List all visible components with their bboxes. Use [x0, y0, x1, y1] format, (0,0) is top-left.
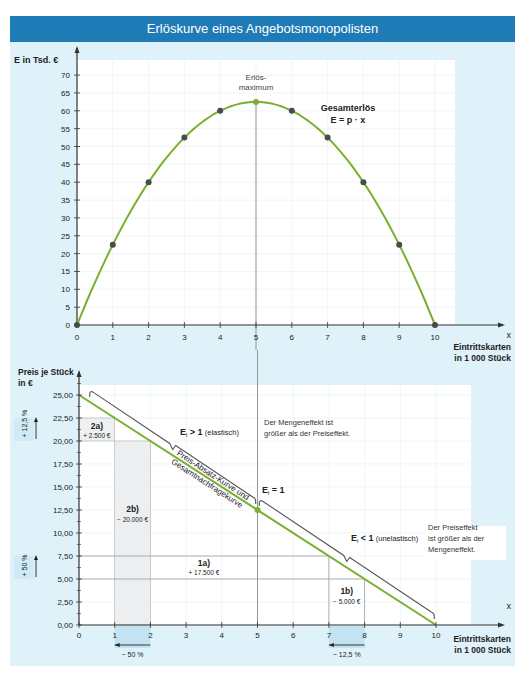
y-tick-label: 25,00: [53, 391, 74, 400]
pct-plus-50: + 50 %: [21, 555, 28, 577]
box-2b-value: − 20.000 €: [117, 516, 148, 523]
data-point: [325, 135, 331, 141]
pct-minus-12-5: − 12,5 %: [333, 651, 361, 658]
x-tick-label: 7: [325, 333, 330, 342]
x-tick-label: 0: [75, 333, 80, 342]
x-tick-label: 1: [112, 631, 117, 640]
arrow-up-icon: [75, 46, 80, 53]
box-2b: [115, 441, 151, 625]
data-point: [110, 242, 116, 248]
y-tick-label: 60: [61, 107, 70, 116]
x-tick-label: 6: [291, 631, 296, 640]
y-tick-label: 10: [61, 285, 70, 294]
arrow-right-icon: [498, 623, 505, 628]
box-2b-label: 2b): [126, 504, 139, 514]
x-tick-label: 0: [77, 631, 82, 640]
x-tick-label: 9: [397, 333, 402, 342]
top-y-axis-label: E in Tsd. €: [14, 55, 58, 65]
pct-minus-50: − 50 %: [122, 651, 144, 658]
data-point: [289, 108, 295, 114]
x-tick-label: 3: [182, 333, 187, 342]
y-tick-label: 25: [61, 232, 70, 241]
box-1a-value: + 17.500 €: [188, 569, 219, 576]
y-tick-label: 30: [61, 214, 70, 223]
y-tick-label: 0: [66, 321, 71, 330]
y-tick-label: 45: [61, 160, 70, 169]
quantity-effect-note: größer als der Preiseffekt.: [264, 429, 350, 438]
box-1a-label: 1a): [198, 558, 210, 568]
elastic-label: El > 1 (elastisch): [180, 427, 239, 438]
curve-label: Gesamterlös: [321, 103, 376, 113]
box-2a-value: + 2.500 €: [83, 432, 111, 439]
box-1b-value: − 5.000 €: [333, 598, 361, 605]
pct-plus-12-5: + 12,5 %: [21, 410, 28, 438]
x-tick-label: 3: [184, 631, 189, 640]
y-tick-label: 20: [61, 250, 70, 259]
y-tick-label: 7,50: [57, 552, 73, 561]
data-point: [253, 99, 259, 105]
data-point: [146, 179, 152, 185]
y-tick-label: 12,50: [53, 506, 74, 515]
max-label: Erlös-: [246, 73, 267, 82]
x-axis-label: Eintrittskarten: [453, 342, 511, 352]
y-tick-label: 10,00: [53, 529, 74, 538]
inelastic-label: El < 1 (unelastisch): [351, 533, 419, 544]
y-tick-label: 40: [61, 178, 70, 187]
y-tick-label: 5,00: [57, 575, 73, 584]
price-effect-note: Der Preiseffekt: [428, 523, 478, 532]
quantity-effect-note: Der Mengeneffekt ist: [264, 418, 334, 427]
x-tick-label: 2: [146, 333, 151, 342]
x-axis-label: in 1 000 Stück: [454, 353, 511, 363]
y-tick-label: 17,50: [53, 460, 74, 469]
x-var-label: x: [507, 601, 512, 611]
y-tick-label: 22,50: [53, 414, 74, 423]
x-tick-label: 6: [290, 333, 295, 342]
curve-label: E = p · x: [331, 115, 366, 125]
unit-elastic-label: El = 1: [262, 485, 285, 496]
arrow-right-icon: [498, 323, 505, 328]
y-tick-label: 0,00: [57, 621, 73, 630]
unit-elastic-point: [255, 507, 261, 513]
x-tick-label: 2: [148, 631, 153, 640]
x-tick-label: 4: [220, 631, 225, 640]
y-tick-label: 15: [61, 267, 70, 276]
x-tick-label: 10: [432, 631, 441, 640]
x-var-label: x: [507, 330, 512, 340]
y-tick-label: 2,50: [57, 598, 73, 607]
x-tick-label: 1: [111, 333, 116, 342]
y-tick-label: 50: [61, 143, 70, 152]
pct-label-group: + 12,5 %: [21, 410, 28, 438]
bottom-y-axis-label: Preis je Stück: [18, 367, 74, 377]
y-tick-label: 55: [61, 125, 70, 134]
y-tick-label: 70: [61, 71, 70, 80]
max-label: maximum: [239, 83, 274, 92]
y-tick-label: 5: [66, 303, 71, 312]
arrow-up-icon: [34, 555, 38, 560]
arrow-up-icon: [77, 370, 82, 377]
x-tick-label: 9: [398, 631, 403, 640]
top-plot-area: [77, 60, 455, 325]
x-tick-label: 8: [362, 631, 367, 640]
y-tick-label: 20,00: [53, 437, 74, 446]
data-point: [181, 135, 187, 141]
box-2a-label: 2a): [91, 421, 103, 431]
data-point: [432, 322, 438, 328]
arrow-up-icon: [34, 417, 38, 422]
x-tick-label: 5: [254, 333, 259, 342]
charts-svg: 0510152025303540455055606570012345678910…: [0, 0, 527, 676]
data-point: [360, 179, 366, 185]
x-tick-label: 10: [431, 333, 440, 342]
x-axis-label: Eintrittskarten: [453, 634, 511, 644]
y-tick-label: 65: [61, 89, 70, 98]
data-point: [74, 322, 80, 328]
bottom-y-axis-label: in €: [18, 378, 33, 388]
y-tick-label: 35: [61, 196, 70, 205]
price-effect-note: ist größer als der: [428, 534, 485, 543]
x-axis-label: in 1 000 Stück: [454, 645, 511, 655]
x-tick-label: 8: [361, 333, 366, 342]
price-effect-note: Mengeneffekt.: [428, 545, 475, 554]
x-tick-label: 5: [255, 631, 260, 640]
data-point: [396, 242, 402, 248]
pct-label-group: + 50 %: [21, 555, 28, 577]
data-point: [217, 108, 223, 114]
